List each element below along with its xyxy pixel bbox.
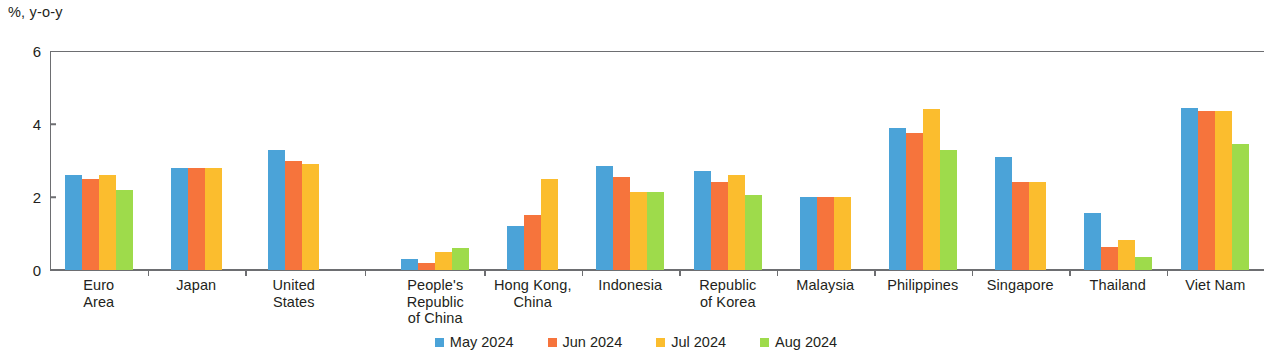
- legend-swatch-icon: [548, 338, 557, 347]
- bar: [507, 226, 524, 270]
- bar: [834, 197, 851, 270]
- y-axis-tick-label: 2: [0, 189, 50, 206]
- bar: [1181, 108, 1198, 270]
- bar: [817, 197, 834, 270]
- bar-group: [1084, 51, 1152, 270]
- bar: [171, 168, 188, 270]
- x-axis-tick-mark: [245, 270, 247, 276]
- bar: [401, 259, 418, 270]
- y-axis-tick-label: 6: [0, 43, 50, 60]
- chart-legend: May 2024Jun 2024Jul 2024Aug 2024: [0, 334, 1272, 350]
- legend-swatch-icon: [760, 338, 769, 347]
- bar: [302, 164, 319, 270]
- x-axis-category-label: Viet Nam: [1149, 277, 1272, 294]
- legend-label: Jun 2024: [563, 334, 623, 350]
- bar-group: [65, 51, 133, 270]
- x-axis-tick-mark: [777, 270, 779, 276]
- y-axis-title: %, y-o-y: [8, 4, 63, 20]
- y-axis-tick-label: 4: [0, 116, 50, 133]
- legend-label: Aug 2024: [775, 334, 837, 350]
- bar: [452, 248, 469, 270]
- bar: [1101, 247, 1118, 270]
- bar-group: [507, 51, 558, 270]
- bar: [1029, 182, 1046, 270]
- bar: [1118, 240, 1135, 270]
- bar: [1198, 111, 1215, 270]
- bar: [711, 182, 728, 270]
- bar: [1084, 213, 1101, 270]
- x-axis-tick-mark: [484, 270, 486, 276]
- bar: [524, 215, 541, 270]
- x-axis-category-label-line: of Korea: [662, 294, 794, 311]
- bar-group: [171, 51, 222, 270]
- x-axis-category-label-line: States: [228, 294, 360, 311]
- bar-group: [694, 51, 762, 270]
- x-axis-category-label-line: China: [467, 294, 599, 311]
- bar: [418, 263, 435, 270]
- x-axis-category-label: UnitedStates: [228, 277, 360, 310]
- legend-item[interactable]: May 2024: [435, 334, 514, 350]
- bar: [268, 150, 285, 270]
- x-axis-tick-mark: [148, 270, 150, 276]
- bar: [923, 109, 940, 270]
- bar: [116, 190, 133, 270]
- legend-item[interactable]: Aug 2024: [760, 334, 837, 350]
- bar-group: [268, 51, 319, 270]
- y-axis-tick-label: 0: [0, 262, 50, 279]
- bar-group: [889, 51, 957, 270]
- bar-chart: %, y-o-y 0246 EuroAreaJapanUnitedStatesP…: [0, 0, 1272, 356]
- legend-swatch-icon: [656, 338, 665, 347]
- bar: [940, 150, 957, 270]
- x-axis-tick-mark: [972, 270, 974, 276]
- bar: [82, 179, 99, 270]
- bar-group: [800, 51, 851, 270]
- bar: [995, 157, 1012, 270]
- x-axis-tick-mark: [874, 270, 876, 276]
- x-axis-tick-mark: [365, 270, 367, 276]
- bar: [65, 175, 82, 270]
- legend-label: Jul 2024: [671, 334, 726, 350]
- bar: [285, 161, 302, 271]
- bar: [1135, 257, 1152, 270]
- x-axis-tick-mark: [1167, 270, 1169, 276]
- x-axis-tick-mark: [679, 270, 681, 276]
- x-axis-category-label-line: United: [228, 277, 360, 294]
- x-axis-category-label-line: Viet Nam: [1149, 277, 1272, 294]
- x-axis-category-label-line: Area: [33, 294, 165, 311]
- bar-group: [995, 51, 1046, 270]
- bar: [1232, 144, 1249, 270]
- bar: [613, 177, 630, 270]
- x-axis-tick-mark: [582, 270, 584, 276]
- bar-group: [1181, 51, 1249, 270]
- bar: [188, 168, 205, 270]
- bar: [541, 179, 558, 270]
- bar: [889, 128, 906, 270]
- bar: [1012, 182, 1029, 270]
- bar: [906, 133, 923, 270]
- bar: [99, 175, 116, 270]
- x-axis-category-label-line: of China: [369, 310, 501, 327]
- bars-layer: [50, 51, 1264, 270]
- bar: [745, 195, 762, 270]
- legend-swatch-icon: [435, 338, 444, 347]
- bar: [205, 168, 222, 270]
- bar: [435, 252, 452, 270]
- bar: [800, 197, 817, 270]
- legend-label: May 2024: [450, 334, 514, 350]
- bar: [596, 166, 613, 270]
- bar: [694, 171, 711, 270]
- x-axis-tick-mark: [1069, 270, 1071, 276]
- bar-group: [596, 51, 664, 270]
- bar-group: [401, 51, 469, 270]
- bar: [1215, 111, 1232, 271]
- legend-item[interactable]: Jul 2024: [656, 334, 726, 350]
- bar: [728, 175, 745, 270]
- legend-item[interactable]: Jun 2024: [548, 334, 623, 350]
- bar: [647, 192, 664, 270]
- bar: [630, 192, 647, 270]
